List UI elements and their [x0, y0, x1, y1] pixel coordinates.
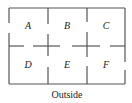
outside-label: Outside — [51, 89, 83, 100]
room-label-c: C — [103, 20, 110, 31]
room-label-f: F — [102, 59, 110, 70]
floor-plan-diagram: A B C D E F Outside — [0, 0, 132, 103]
room-label-d: D — [23, 59, 32, 70]
room-label-b: B — [64, 20, 70, 31]
room-label-a: A — [24, 20, 32, 31]
room-label-e: E — [63, 59, 70, 70]
